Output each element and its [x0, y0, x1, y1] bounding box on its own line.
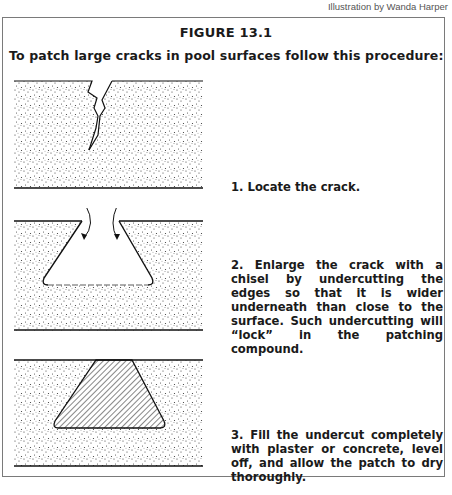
illustration-filled-patch — [14, 359, 203, 469]
illustration-crack — [14, 80, 203, 190]
illustration-credit: Illustration by Wanda Harper — [328, 1, 448, 12]
figure-title: FIGURE 13.1 — [0, 25, 452, 40]
illustration-undercut — [14, 208, 203, 333]
figure-intro: To patch large cracks in pool surfaces f… — [9, 48, 444, 63]
step-3-text: 3. Fill the undercut completely with pla… — [231, 428, 443, 484]
step-1-text: 1. Locate the crack. — [231, 180, 443, 194]
step-2-text: 2. Enlarge the crack with a chisel by un… — [231, 258, 443, 356]
